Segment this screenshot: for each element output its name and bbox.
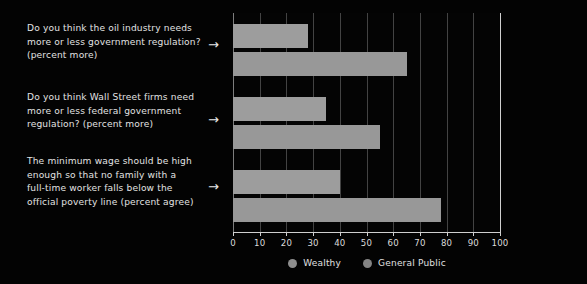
x-tick-label: 20 (281, 238, 292, 248)
chart-legend: Wealthy General Public (233, 258, 501, 268)
x-tick-label: 50 (361, 238, 372, 248)
x-tick (393, 232, 394, 236)
x-tick-label: 0 (230, 238, 236, 248)
legend-label-general-public: General Public (378, 258, 446, 268)
chart-figure: Do you think the oil industry needs more… (0, 0, 587, 284)
bar-wealthy (233, 24, 308, 48)
x-tick (313, 232, 314, 236)
bar-wealthy (233, 170, 340, 194)
x-tick (367, 232, 368, 236)
x-tick (420, 232, 421, 236)
bar-general-public (233, 198, 441, 222)
bar-general-public (233, 125, 380, 149)
bar-general-public (233, 52, 407, 76)
arrow-right-icon: → (208, 180, 232, 193)
legend-item-general-public[interactable]: General Public (363, 258, 446, 268)
question-labels-column: Do you think the oil industry needs more… (0, 0, 232, 240)
arrow-right-icon: → (208, 38, 232, 51)
x-tick-label: 100 (491, 238, 508, 248)
gridline (447, 13, 448, 232)
x-tick-label: 70 (414, 238, 425, 248)
x-tick (233, 232, 234, 236)
x-tick-label: 40 (334, 238, 345, 248)
gridline (473, 13, 474, 232)
plot-right-spine (500, 13, 501, 233)
x-tick-label: 80 (441, 238, 452, 248)
arrow-right-icon: → (208, 113, 232, 126)
bar-wealthy (233, 97, 326, 121)
x-tick-label: 60 (388, 238, 399, 248)
x-tick-label: 90 (468, 238, 479, 248)
x-tick (473, 232, 474, 236)
question-label-wall-street: Do you think Wall Street firms need more… (27, 91, 213, 132)
x-tick-label: 10 (254, 238, 265, 248)
plot-area (233, 13, 500, 232)
legend-item-wealthy[interactable]: Wealthy (288, 258, 341, 268)
question-label-minimum-wage: The minimum wage should be high enough s… (27, 155, 213, 209)
legend-swatch-icon (363, 259, 372, 268)
x-tick (260, 232, 261, 236)
legend-label-wealthy: Wealthy (303, 258, 341, 268)
x-tick-label: 30 (307, 238, 318, 248)
x-tick (447, 232, 448, 236)
x-tick (340, 232, 341, 236)
question-label-oil-industry: Do you think the oil industry needs more… (27, 22, 213, 63)
x-tick (500, 232, 501, 236)
x-tick (286, 232, 287, 236)
legend-swatch-icon (288, 259, 297, 268)
